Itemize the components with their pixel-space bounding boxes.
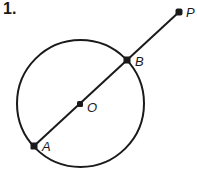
point-a-marker xyxy=(31,143,38,150)
label-o: O xyxy=(87,100,97,115)
point-p-marker xyxy=(176,9,183,16)
label-p: P xyxy=(186,5,195,20)
point-o-marker xyxy=(77,101,83,107)
point-b-marker xyxy=(124,57,131,64)
label-b: B xyxy=(135,54,144,69)
label-a: A xyxy=(41,139,51,154)
geometry-diagram: P B O A xyxy=(0,0,197,169)
segment-ap xyxy=(34,12,179,146)
